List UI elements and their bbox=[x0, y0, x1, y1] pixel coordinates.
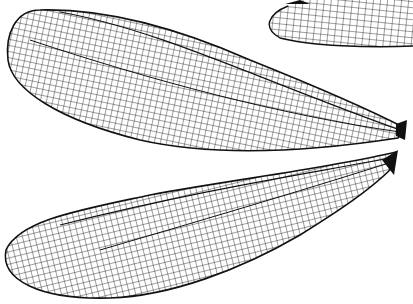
wing-illustration bbox=[0, 0, 413, 304]
